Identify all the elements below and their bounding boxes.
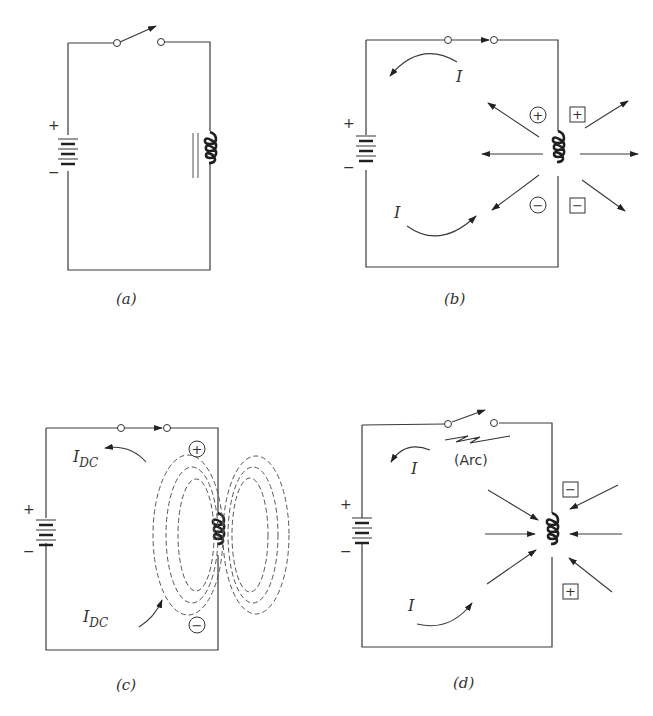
battery-minus-label: − <box>343 159 355 175</box>
caption-c: (c) <box>116 676 136 694</box>
inductor-coil-icon <box>193 132 216 178</box>
battery-plus-label: + <box>340 496 352 512</box>
positive-charge-circle: + <box>530 107 546 123</box>
battery-plus-label: + <box>48 117 60 133</box>
panel-a: + − (a) <box>48 26 216 308</box>
battery-plus-label: + <box>23 501 35 517</box>
arc-spark-icon <box>445 436 510 443</box>
battery-minus-label: − <box>48 164 60 180</box>
negative-polarity-box: − <box>570 198 585 213</box>
battery-icon <box>356 136 376 161</box>
positive-polarity-box: + <box>570 107 585 122</box>
negative-charge-circle: − <box>189 617 205 633</box>
battery-icon <box>58 139 78 164</box>
sign-label: + <box>565 584 576 599</box>
current-label: I <box>407 596 415 615</box>
inductor-coil-icon <box>547 513 558 544</box>
sign-label: − <box>572 198 583 213</box>
switch-contact <box>114 40 121 47</box>
current-label: I <box>455 67 463 86</box>
inductor-coil-icon <box>553 131 564 162</box>
inductor-circuit-figure: + − (a) + − I I <box>0 0 653 716</box>
sign-label: − <box>192 618 203 633</box>
battery-plus-label: + <box>343 115 355 131</box>
current-direction-arrow <box>139 600 162 627</box>
current-direction-arrow <box>390 54 457 76</box>
current-label: IDC <box>72 447 98 470</box>
opening-switch-blade <box>452 410 485 422</box>
current-label: I <box>393 203 401 222</box>
arc-label: (Arc) <box>454 452 488 468</box>
positive-polarity-box: + <box>563 584 578 599</box>
switch-contact <box>118 425 125 432</box>
sign-label: − <box>533 198 544 213</box>
open-switch-blade <box>120 26 156 42</box>
sign-label: − <box>565 482 576 497</box>
caption-d: (d) <box>453 674 474 692</box>
positive-charge-circle: + <box>189 441 205 457</box>
panel-d: (Arc) + − I I − + <box>340 410 622 692</box>
current-label: IDC <box>82 607 108 630</box>
negative-charge-circle: − <box>530 197 546 213</box>
switch-contact <box>491 37 498 44</box>
switch-contact <box>164 425 171 432</box>
current-direction-arrow <box>407 216 476 236</box>
panel-c: + − IDC IDC + − (c) <box>23 425 289 695</box>
panel-b: + − I I + − + − <box>343 37 638 309</box>
current-direction-arrow <box>417 603 472 626</box>
switch-contact <box>445 37 452 44</box>
switch-contact <box>445 421 452 428</box>
current-label: I <box>410 459 418 478</box>
sign-label: + <box>533 108 544 123</box>
switch-contact <box>491 420 498 427</box>
battery-icon <box>352 518 372 543</box>
sign-label: + <box>572 107 583 122</box>
battery-minus-label: − <box>23 543 35 559</box>
negative-polarity-box: − <box>563 482 578 497</box>
battery-minus-label: − <box>340 543 352 559</box>
caption-b: (b) <box>444 290 465 308</box>
battery-icon <box>36 520 56 545</box>
current-direction-arrow <box>105 447 146 462</box>
sign-label: + <box>192 442 203 457</box>
caption-a: (a) <box>116 290 137 308</box>
switch-contact <box>158 39 165 46</box>
